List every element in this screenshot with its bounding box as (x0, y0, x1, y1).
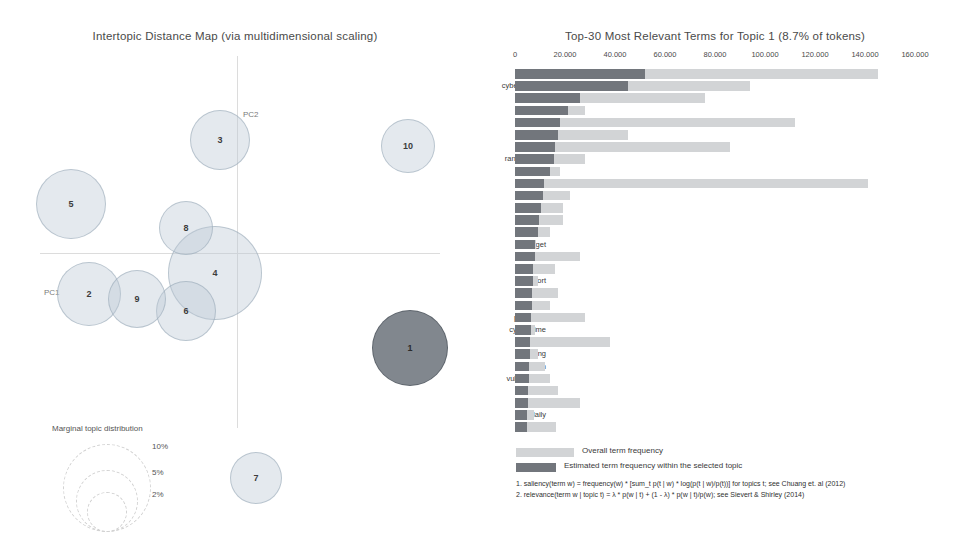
marginal-legend-title: Marginal topic distribution (52, 424, 143, 433)
bar-estimated-frequency (515, 106, 568, 116)
bar-estimated-frequency (515, 374, 529, 384)
bar-track (515, 325, 915, 335)
topic-circle-10[interactable]: 10 (381, 119, 435, 173)
marginal-percent-label: 2% (152, 490, 164, 499)
bar-track (515, 337, 915, 347)
bar-track (515, 93, 915, 103)
bar-estimated-frequency (515, 130, 558, 140)
bar-estimated-frequency (515, 337, 530, 347)
bar-row[interactable]: phishing (470, 348, 960, 360)
x-axis-tick: 160.000 (901, 50, 928, 59)
bar-row[interactable]: daily (470, 409, 960, 421)
bar-row[interactable]: vulnerability (470, 373, 960, 385)
bar-track (515, 106, 915, 116)
bar-estimated-frequency (515, 227, 538, 237)
bar-track (515, 410, 915, 420)
bar-estimated-frequency (515, 313, 531, 323)
bar-row[interactable]: report (470, 275, 960, 287)
bar-row[interactable]: security (470, 68, 960, 80)
bar-estimated-frequency (515, 398, 528, 408)
bar-estimated-frequency (515, 215, 539, 225)
legend-label-overall: Overall term frequency (582, 446, 663, 455)
bar-track (515, 422, 915, 432)
bar-estimated-frequency (515, 410, 527, 420)
bar-row[interactable]: threat (470, 202, 960, 214)
topic-circle-label: 2 (86, 289, 91, 299)
barchart-title: Top-30 Most Relevant Terms for Topic 1 (… (470, 30, 960, 42)
bar-track (515, 215, 915, 225)
bar-track (515, 313, 915, 323)
topic-circle-label: 8 (183, 223, 188, 233)
topic-circle-1[interactable]: 1 (372, 310, 448, 386)
x-axis-tick: 40.000 (604, 50, 627, 59)
bar-row[interactable]: password (470, 312, 960, 324)
topic-circle-label: 7 (253, 473, 258, 483)
bar-row[interactable]: user (470, 300, 960, 312)
bar-row[interactable]: data (470, 129, 960, 141)
bar-row[interactable]: hack (470, 141, 960, 153)
x-axis-tick: 0 (513, 50, 517, 59)
bar-row[interactable]: infosec (470, 105, 960, 117)
bar-row[interactable]: target (470, 239, 960, 251)
topic-circle-3[interactable]: 3 (190, 110, 250, 170)
bar-row[interactable]: risk (470, 287, 960, 299)
bar-row[interactable]: thanks (470, 397, 960, 409)
topic-circle-8[interactable]: 8 (159, 201, 213, 255)
legend-item-overall: Overall term frequency (516, 446, 956, 461)
bar-row[interactable]: attack (470, 117, 960, 129)
bar-row[interactable]: late (470, 226, 960, 238)
bar-row[interactable]: cloud (470, 263, 960, 275)
bar-track (515, 227, 915, 237)
bar-row[interactable]: privacy (470, 336, 960, 348)
bar-row[interactable]: google (470, 421, 960, 433)
bar-track (515, 179, 915, 189)
intertopic-map-plot: PC1 PC2 12345678910 (0, 48, 470, 428)
bar-estimated-frequency (515, 240, 535, 250)
bar-estimated-frequency (515, 325, 531, 335)
topic-circle-9[interactable]: 9 (108, 270, 166, 328)
bar-row[interactable]: company (470, 385, 960, 397)
topic-circle-6[interactable]: 6 (156, 281, 216, 341)
bar-track (515, 130, 915, 140)
bar-estimated-frequency (515, 288, 532, 298)
marginal-percent-label: 10% (152, 442, 168, 451)
intertopic-distance-map-panel: Intertopic Distance Map (via multidimens… (0, 0, 470, 543)
bar-estimated-frequency (515, 386, 528, 396)
bar-track (515, 362, 915, 372)
pyldavis-visualization: Intertopic Distance Map (via multidimens… (0, 0, 960, 543)
bar-track (515, 167, 915, 177)
bar-estimated-frequency (515, 252, 535, 262)
formula-line-2: 2. relevance(term w | topic t) = λ * p(w… (516, 489, 960, 500)
bar-track (515, 276, 915, 286)
x-axis-tick: 80.000 (704, 50, 727, 59)
x-axis-tick: 100.000 (751, 50, 778, 59)
barchart-legend: Overall term frequency Estimated term fr… (516, 446, 956, 476)
topic-circle-label: 10 (403, 141, 413, 151)
barchart-x-axis-ticks: 020.00040.00060.00080.000100.000120.0001… (470, 50, 960, 64)
bar-row[interactable]: cyber (470, 92, 960, 104)
intertopic-map-title: Intertopic Distance Map (via multidimens… (0, 30, 470, 42)
bar-estimated-frequency (515, 276, 533, 286)
x-axis-tick: 60.000 (654, 50, 677, 59)
bar-estimated-frequency (515, 142, 555, 152)
marginal-ring-10pct (63, 444, 151, 532)
bar-row[interactable]: news (470, 251, 960, 263)
topic-circle-5[interactable]: 5 (36, 169, 106, 239)
bar-estimated-frequency (515, 301, 532, 311)
legend-swatch-overall-icon (516, 448, 574, 457)
bar-estimated-frequency (515, 264, 533, 274)
bar-estimated-frequency (515, 179, 544, 189)
bar-row[interactable]: breach (470, 214, 960, 226)
bar-row[interactable]: cybersecurity (470, 80, 960, 92)
bar-row[interactable]: ransomware (470, 153, 960, 165)
bar-track (515, 398, 915, 408)
bar-row[interactable]: million (470, 361, 960, 373)
bar-track (515, 301, 915, 311)
bar-estimated-frequency (515, 349, 530, 359)
x-axis-tick: 140.000 (851, 50, 878, 59)
bar-track (515, 203, 915, 213)
bar-row[interactable]: new (470, 166, 960, 178)
bar-row[interactable]: malware (470, 178, 960, 190)
bar-row[interactable]: hacker (470, 190, 960, 202)
bar-row[interactable]: cybercrime (470, 324, 960, 336)
